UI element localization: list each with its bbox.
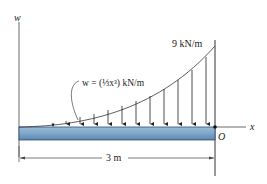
function-leader-line: [71, 81, 79, 120]
x-axis-label: x: [249, 121, 255, 132]
w-axis-label: w: [14, 12, 21, 23]
beam-load-diagram: w x O 9 kN/m w = (⅓x³) kN/m 3 m: [0, 0, 267, 184]
origin-label: O: [218, 131, 225, 142]
load-function-label: w = (⅓x³) kN/m: [82, 78, 145, 89]
max-load-label: 9 kN/m: [172, 38, 203, 49]
span-label: 3 m: [106, 152, 122, 163]
x-axis: [213, 125, 246, 129]
load-arrows: [52, 57, 207, 127]
beam: [19, 127, 215, 140]
